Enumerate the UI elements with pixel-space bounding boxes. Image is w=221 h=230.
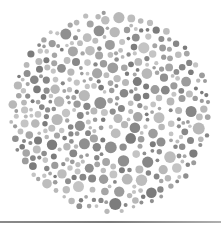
plate-dot [65, 118, 69, 122]
plate-dot [126, 52, 130, 56]
plate-dot [183, 173, 188, 178]
plate-dot [83, 33, 92, 42]
plate-dot [65, 157, 70, 162]
plate-dot [67, 69, 74, 76]
plate-dot [138, 18, 144, 24]
plate-dot [129, 24, 133, 28]
plate-dot [47, 140, 57, 150]
plate-dot [85, 84, 90, 89]
plate-dot [193, 96, 198, 101]
plate-dot [60, 48, 64, 52]
plate-dot [145, 34, 151, 40]
plate-dot [27, 50, 34, 57]
plate-dot [175, 180, 179, 184]
bottom-rule-divider [0, 221, 221, 223]
plate-dot [146, 170, 151, 175]
plate-dot [57, 169, 66, 178]
plate-dot [15, 148, 19, 152]
plate-dot [92, 129, 96, 133]
plate-dot [109, 198, 121, 210]
plate-dot [68, 198, 74, 204]
plate-dot [92, 68, 102, 78]
plate-dot [183, 154, 187, 158]
plate-dot [194, 86, 198, 90]
plate-dot [42, 179, 52, 189]
plate-dot [100, 60, 107, 67]
plate-dot [75, 162, 80, 167]
plate-dot [98, 198, 103, 203]
plate-dot [79, 198, 83, 202]
plate-dot [76, 203, 82, 209]
plate-dot [181, 77, 191, 87]
plate-dot [29, 108, 33, 112]
plate-dot [144, 56, 149, 61]
plate-dot [43, 157, 49, 163]
plate-dot [113, 75, 120, 82]
plate-dot [110, 171, 118, 179]
plate-dot [181, 160, 185, 164]
plate-dot [94, 26, 105, 37]
plate-dot [104, 200, 108, 204]
plate-dot [54, 96, 64, 106]
plate-dot [114, 186, 124, 196]
plate-dot [114, 84, 118, 88]
plate-dot [157, 186, 163, 192]
plate-dot [139, 201, 143, 205]
plate-dot [84, 59, 91, 66]
plate-dot [113, 180, 117, 184]
plate-dot [39, 74, 43, 78]
plate-dot [150, 141, 156, 147]
plate-dot [70, 159, 75, 164]
plate-dot [125, 72, 129, 76]
plate-dot [127, 37, 131, 41]
plate-dot [107, 98, 113, 104]
plate-dot [120, 89, 129, 98]
plate-dot [94, 155, 99, 160]
plate-dot [129, 89, 133, 93]
plate-dot [171, 74, 175, 78]
plate-dot [157, 149, 162, 154]
plate-dot [90, 108, 97, 115]
plate-dot [51, 162, 58, 169]
plate-dot [159, 179, 164, 184]
plate-dot [55, 31, 59, 35]
plate-dot [175, 139, 179, 143]
plate-dot [61, 81, 65, 85]
plate-dot [53, 180, 58, 185]
plate-dot [145, 112, 149, 116]
plate-dot [200, 99, 204, 103]
plate-dot [98, 85, 104, 91]
plate-dot [84, 195, 88, 199]
plate-dot [60, 29, 71, 40]
plate-dot [147, 20, 153, 26]
plate-dot [36, 66, 43, 73]
plate-dot [191, 160, 196, 165]
plate-dot [36, 100, 41, 105]
plate-dot [35, 58, 42, 65]
plate-dot [49, 30, 53, 34]
plate-dot [31, 173, 36, 178]
plate-dot [124, 203, 128, 207]
plate-dot [37, 132, 41, 136]
plate-dot [186, 106, 197, 117]
plate-dot [21, 88, 26, 93]
plate-dot [52, 114, 63, 125]
plate-dot [9, 120, 13, 124]
plate-dot [196, 78, 200, 82]
plate-dot [160, 74, 168, 82]
plate-dot [169, 132, 174, 137]
plate-dot [142, 68, 153, 79]
plate-dot [165, 64, 173, 72]
plate-dot [18, 129, 24, 135]
plate-dot [21, 78, 25, 82]
plate-dot [43, 57, 49, 63]
plate-dot [145, 63, 149, 67]
plate-dot [52, 53, 57, 58]
plate-dot [177, 117, 181, 121]
plate-dot [52, 107, 57, 112]
plate-dot [138, 136, 145, 143]
plate-dot [65, 44, 69, 48]
plate-dot [68, 23, 73, 28]
plate-dot [101, 16, 109, 24]
plate-dot [131, 44, 138, 51]
